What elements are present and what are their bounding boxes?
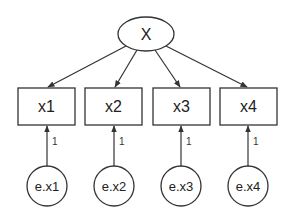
- observed-node-x3: x3: [153, 88, 210, 125]
- observed-label: x2: [105, 98, 122, 115]
- observed-label: x1: [38, 98, 55, 115]
- error-edges: [47, 126, 248, 166]
- error-label: e.x3: [169, 179, 194, 194]
- edge-X-x1: [48, 46, 126, 87]
- edge-X-x3: [155, 50, 180, 87]
- path-coefficients: 1 1 1 1: [52, 136, 259, 147]
- observed-label: x4: [240, 98, 257, 115]
- error-node-ex4: e.x4: [228, 166, 268, 206]
- observed-node-x1: x1: [18, 88, 75, 125]
- error-label: e.x4: [236, 179, 261, 194]
- coef-ex4: 1: [253, 136, 259, 147]
- error-label: e.x1: [35, 179, 60, 194]
- error-node-ex1: e.x1: [27, 166, 67, 206]
- sem-diagram: 1 1 1 1 X x1 x2 x3 x4 e.x1 e.x2 e.x3 e.x…: [0, 0, 293, 216]
- error-label: e.x2: [102, 179, 127, 194]
- coef-ex3: 1: [186, 136, 192, 147]
- edge-X-x4: [166, 46, 247, 87]
- observed-label: x3: [173, 98, 190, 115]
- latent-node-X: X: [118, 17, 174, 51]
- observed-node-x2: x2: [85, 88, 142, 125]
- observed-node-x4: x4: [220, 88, 277, 125]
- coef-ex2: 1: [119, 136, 125, 147]
- error-node-ex3: e.x3: [161, 166, 201, 206]
- loading-edges: [48, 46, 247, 87]
- edge-X-x2: [115, 50, 137, 87]
- error-node-ex2: e.x2: [94, 166, 134, 206]
- coef-ex1: 1: [52, 136, 58, 147]
- latent-label: X: [141, 26, 152, 43]
